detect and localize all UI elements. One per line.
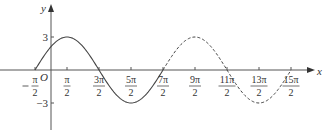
x-tick-label: π2 <box>23 74 39 98</box>
x-tick-label: 11π2 <box>219 74 236 98</box>
svg-text:2: 2 <box>129 87 134 98</box>
svg-text:2: 2 <box>225 87 230 98</box>
svg-text:9π: 9π <box>190 74 200 85</box>
x-axis-label: x <box>316 65 322 77</box>
svg-text:2: 2 <box>257 87 262 98</box>
svg-text:2: 2 <box>161 87 166 98</box>
x-tick-label: 13π2 <box>251 74 268 98</box>
y-axis-label: y <box>40 2 46 14</box>
x-ticks: π2π23π25π27π29π211π213π215π2 <box>23 67 300 98</box>
y-tick-label: −3 <box>36 97 48 109</box>
svg-text:15π: 15π <box>283 74 298 85</box>
svg-text:2: 2 <box>97 87 102 98</box>
svg-text:11π: 11π <box>220 74 235 85</box>
svg-text:2: 2 <box>289 87 294 98</box>
svg-text:2: 2 <box>193 87 198 98</box>
x-axis-arrow-icon <box>307 67 315 73</box>
svg-text:2: 2 <box>33 87 38 98</box>
svg-text:π: π <box>32 74 37 85</box>
y-axis-arrow-icon <box>48 4 54 12</box>
origin-label: O <box>40 71 48 83</box>
x-tick-label: 15π2 <box>283 74 300 98</box>
x-tick-label: 9π2 <box>189 74 201 98</box>
sine-graph: x y O 3−3 π2π23π25π27π29π211π213π215π2 <box>0 0 325 140</box>
svg-text:2: 2 <box>65 87 70 98</box>
svg-text:π: π <box>64 74 69 85</box>
svg-text:5π: 5π <box>126 74 136 85</box>
x-tick-label: 5π2 <box>125 74 137 98</box>
y-tick-label: 3 <box>43 31 49 43</box>
svg-text:13π: 13π <box>251 74 266 85</box>
x-tick-label: π2 <box>64 74 71 98</box>
